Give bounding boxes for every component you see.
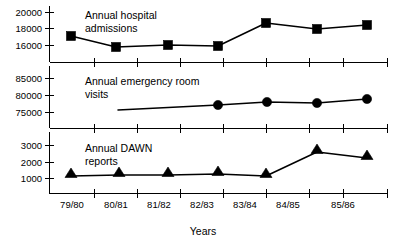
xtick-label-80-81: 80/81 (104, 199, 128, 210)
panel3-marker-80-81 (113, 167, 125, 177)
panel3-marker-81-82 (162, 167, 174, 177)
panel2-series-label-line2: visits (85, 88, 108, 100)
panel1-marker-80-81 (112, 43, 121, 52)
panel2-marker-85-86 (362, 94, 371, 103)
panel2-ytick-label-80000: 80000 (16, 90, 42, 101)
xtick-label-82-83: 82/83 (190, 199, 214, 210)
panel1-ytick-label-18000: 18000 (16, 23, 42, 34)
panel-emergency-room-visits: 85000 80000 75000 Annual emergency room … (16, 66, 388, 133)
panel1-series-label-line2: admissions (85, 22, 138, 34)
panel1-marker-82-83 (214, 42, 223, 51)
xtick-label-79-80: 79/80 (60, 199, 84, 210)
panel1-series-label-line1: Annual hospital (85, 9, 157, 21)
xtick-label-84-85: 84/85 (276, 199, 300, 210)
chart-container: 20000 18000 16000 Annual hospital admiss… (0, 0, 405, 244)
panel1-marker-79-80 (67, 32, 76, 41)
panel1-marker-81-82 (164, 41, 173, 50)
xtick-label-85-86: 85/86 (331, 199, 355, 210)
xtick-label-81-82: 81/82 (147, 199, 171, 210)
panel3-series-label-line1: Annual DAWN (85, 142, 152, 154)
panel3-marker-85-86 (361, 150, 373, 160)
panel2-marker-84-85 (312, 98, 321, 107)
panel2-ytick-label-85000: 85000 (16, 73, 42, 84)
panel1-marker-85-86 (363, 21, 372, 30)
panel3-ytick-label-3000: 3000 (21, 140, 42, 151)
panel-hospital-admissions: 20000 18000 16000 Annual hospital admiss… (16, 6, 388, 67)
xtick-label-83-84: 83/84 (233, 199, 257, 210)
panel3-marker-83-84 (260, 168, 272, 178)
panel2-series-label-line1: Annual emergency room (85, 75, 200, 87)
panel1-marker-83-84 (262, 19, 271, 28)
panel3-marker-82-83 (212, 166, 224, 176)
panel3-ytick-label-2000: 2000 (21, 157, 42, 168)
panel2-marker-83-84 (262, 97, 271, 106)
x-axis-category-labels: 79/80 80/81 81/82 82/83 83/84 84/85 85/8… (60, 199, 355, 210)
panel2-marker-82-83 (213, 100, 222, 109)
panel1-ytick-label-16000: 16000 (16, 40, 42, 51)
panel3-ytick-label-1000: 1000 (21, 173, 42, 184)
panel-dawn-reports: 3000 2000 1000 Annual DAWN reports (21, 132, 388, 237)
panel3-marker-84-85 (311, 144, 323, 154)
panel1-ytick-label-20000: 20000 (16, 7, 42, 18)
multi-panel-line-chart: 20000 18000 16000 Annual hospital admiss… (0, 0, 405, 244)
panel2-ytick-label-75000: 75000 (16, 107, 42, 118)
x-axis-title: Years (190, 225, 216, 237)
panel1-marker-84-85 (313, 25, 322, 34)
panel3-marker-79-80 (65, 168, 77, 178)
panel2-data-line (118, 99, 367, 110)
panel3-series-label-line2: reports (85, 155, 118, 167)
